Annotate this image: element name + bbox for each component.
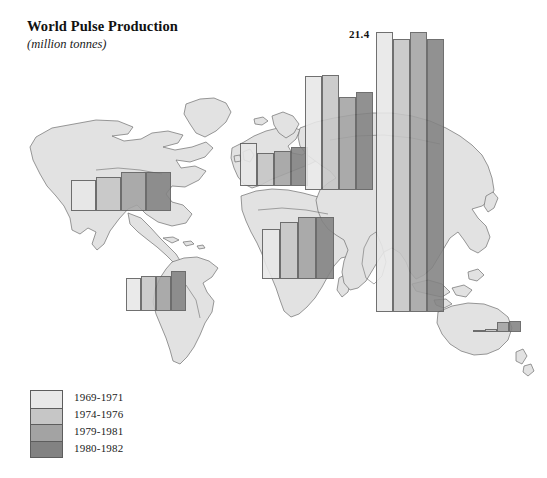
bar-south-america-1980-1982 [171,271,186,311]
bar-africa-1974-1976 [280,222,298,279]
bar-ussr-eastern-europe-1979-1981 [339,97,356,190]
bar-africa-1979-1981 [298,217,316,279]
bar-oceania-1980-1982 [509,321,521,332]
legend-item-label: 1979-1981 [74,423,123,440]
bar-asia-1979-1981 [410,32,427,312]
bar-asia-1980-1982 [427,39,444,312]
bar-asia-1974-1976 [393,39,410,312]
bar-europe-1974-1976 [257,153,274,186]
bar-africa-1980-1982 [316,217,334,279]
legend-swatch [31,408,62,425]
bar-north-america-1974-1976 [96,177,121,211]
bar-south-america-1969-1971 [126,278,141,311]
bar-europe-1979-1981 [274,151,291,186]
bar-north-america-1979-1981 [121,172,146,211]
bar-ussr-eastern-europe-1974-1976 [322,75,339,190]
bar-oceania-1969-1971 [473,330,485,332]
legend-swatch [31,441,62,458]
bar-asia-1969-1971 [376,32,393,312]
bar-north-america-1980-1982 [146,172,171,211]
legend-swatch [31,391,62,408]
peak-value-label: 21.4 [349,28,369,40]
bar-north-america-1969-1971 [71,180,96,211]
bar-ussr-eastern-europe-1980-1982 [356,92,373,190]
bar-south-america-1979-1981 [156,276,171,311]
legend-swatch [31,424,62,441]
bar-oceania-1979-1981 [497,322,509,332]
bar-oceania-1974-1976 [485,329,497,332]
bar-south-america-1974-1976 [141,276,156,311]
bar-ussr-eastern-europe-1969-1971 [305,76,322,190]
legend-item-label: 1980-1982 [74,440,123,457]
legend-swatches [30,390,63,458]
legend-labels: 1969-1971 1974-1976 1979-1981 1980-1982 [74,389,123,457]
legend-item-label: 1974-1976 [74,406,123,423]
bar-africa-1969-1971 [262,229,280,279]
bar-europe-1969-1971 [240,143,257,186]
chart-canvas: World Pulse Production (million tonnes) … [0,0,547,478]
legend-item-label: 1969-1971 [74,389,123,406]
